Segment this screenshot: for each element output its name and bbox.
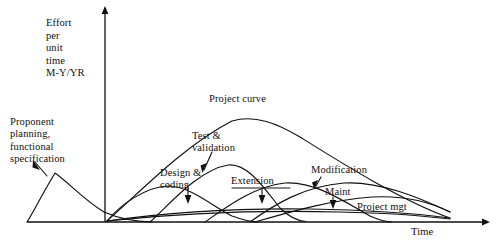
y-axis-label-line-2: per [46,30,85,43]
effort-per-unit-time-figure: Effort per unit time M-Y/YR Time Propone… [0,0,496,241]
annotation-proponent-line-4: specification [10,153,65,165]
annotation-test-validation: Test & validation [192,130,235,154]
y-axis-label-line-1: Effort [46,17,85,30]
y-axis-label-line-5: M-Y/YR [46,67,85,80]
annotation-proponent-planning: Proponent planning, functional specifica… [10,116,65,166]
y-axis-arrowhead [102,6,109,14]
x-axis-label: Time [411,226,433,238]
leader-maint-arrowhead [330,200,337,209]
annotation-project-mgt: Project mgt [357,201,407,213]
leader-test-validation-arrowhead [201,163,207,173]
annotation-proponent-line-1: Proponent [10,116,65,128]
annotation-design-coding-line-2: coding [160,179,201,191]
annotation-test-validation-line-1: Test & [192,130,235,142]
annotation-test-validation-line-2: validation [192,142,235,154]
annotation-proponent-line-2: planning, [10,128,65,140]
annotation-extension: Extension [231,175,274,187]
leader-extension-arrowhead [259,195,266,204]
annotation-project-curve: Project curve [209,93,266,105]
x-axis-arrowhead [482,219,490,226]
annotation-design-coding-line-1: Design & [160,167,201,179]
leader-design-coding-arrowhead [185,195,192,204]
annotation-modification: Modification [311,164,367,176]
annotation-design-coding: Design & coding [160,167,201,191]
y-axis-label-line-4: time [46,55,85,68]
axes-group [27,6,490,225]
y-axis-label-line-3: unit [46,42,85,55]
annotation-maint: Maint [325,186,351,198]
leader-test-validation [204,152,212,170]
y-axis-label: Effort per unit time M-Y/YR [46,17,85,80]
annotation-proponent-line-3: functional [10,141,65,153]
